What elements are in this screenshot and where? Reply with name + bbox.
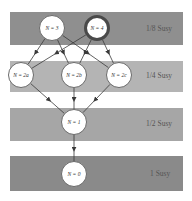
node-n2a: N = 2a <box>8 62 34 88</box>
node-n1: N = 1 <box>61 109 87 135</box>
node-label: N = 2a <box>13 72 29 78</box>
node-label: N = 1 <box>68 119 81 125</box>
node-label: N = 2b <box>66 72 82 78</box>
node-n4-highlighted: N = 4 <box>84 15 110 41</box>
node-label: N = 2c <box>111 72 126 78</box>
node-n0: N = 0 <box>61 161 87 187</box>
edge-n4-to-n2c <box>103 40 114 63</box>
edge-n3-to-n2a <box>28 39 45 64</box>
node-n3: N = 3 <box>39 15 65 41</box>
node-label: N = 3 <box>46 25 59 31</box>
edge-n2c-to-n1 <box>83 84 110 112</box>
node-n2b: N = 2b <box>61 62 87 88</box>
edge-n2a-to-n1 <box>31 84 65 114</box>
node-label: N = 4 <box>91 25 104 31</box>
edge-n4-to-n2b <box>80 40 92 64</box>
node-label: N = 0 <box>68 171 81 177</box>
node-n2c: N = 2c <box>106 62 132 88</box>
